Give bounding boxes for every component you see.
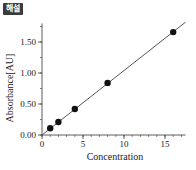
data-point: [47, 125, 53, 131]
calibration-chart: 0510150.000.501.001.50 Concentration Abs…: [0, 0, 196, 170]
x-tick-label: 15: [161, 139, 171, 149]
data-point: [170, 29, 176, 35]
x-axis-label: Concentration: [87, 151, 144, 162]
y-axis-label: Absorbance[AU]: [4, 54, 15, 123]
data-point: [55, 119, 61, 125]
y-tick-label: 1.50: [20, 37, 36, 47]
fit-line: [42, 22, 186, 135]
y-tick-label: 0.00: [20, 130, 36, 140]
x-tick-label: 10: [120, 139, 130, 149]
data-point: [104, 80, 110, 86]
x-tick-label: 5: [81, 139, 86, 149]
y-tick-label: 1.00: [20, 68, 36, 78]
x-tick-label: 0: [40, 139, 45, 149]
data-point: [72, 106, 78, 112]
y-tick-label: 0.50: [20, 99, 36, 109]
